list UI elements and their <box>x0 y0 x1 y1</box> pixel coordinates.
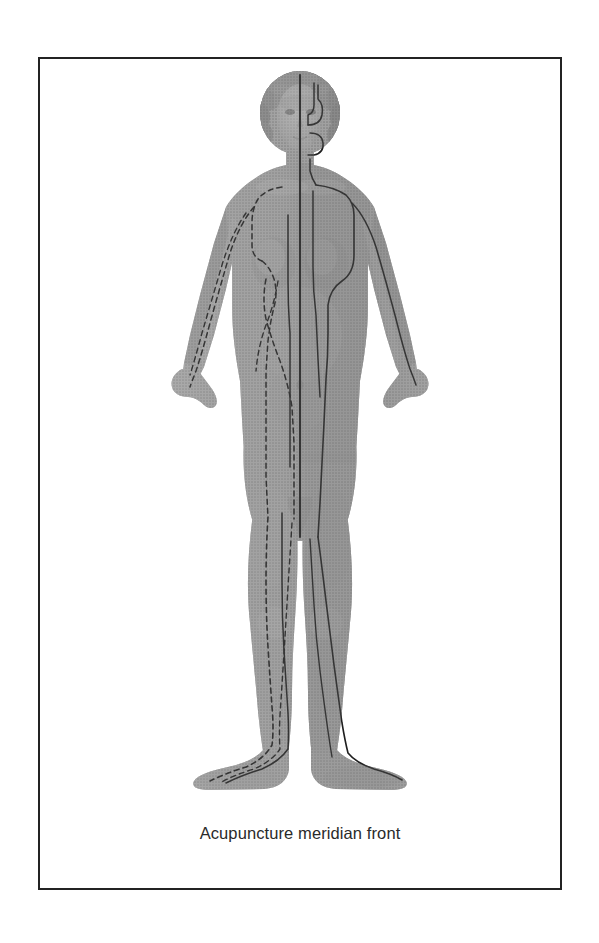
halftone-overlay <box>170 67 430 797</box>
figure-caption: Acupuncture meridian front <box>40 824 560 843</box>
acupuncture-figure-illustration <box>170 67 430 797</box>
screenshot-root: Acupuncture meridian front <box>0 0 599 943</box>
illustration-plate: Acupuncture meridian front <box>38 57 562 890</box>
figure-area <box>40 59 560 804</box>
